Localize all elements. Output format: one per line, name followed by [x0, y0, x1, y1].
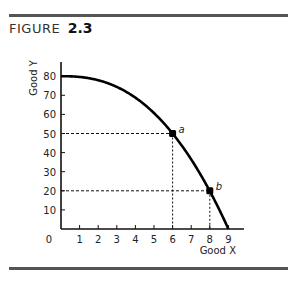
x-tick-label: 1	[76, 234, 82, 245]
x-tick-label: 3	[114, 234, 120, 245]
ppf-chart: 1234567891020304050607080 ab Good X Good…	[0, 0, 300, 281]
origin-label: 0	[46, 234, 52, 245]
x-tick-label: 4	[132, 234, 138, 245]
y-tick-label: 20	[43, 186, 56, 197]
series	[61, 76, 228, 229]
y-tick-label: 80	[43, 71, 56, 82]
x-tick-label: 7	[188, 234, 194, 245]
ticks: 1234567891020304050607080	[43, 71, 231, 245]
ppf-curve	[61, 76, 228, 229]
y-axis-label: Good Y	[28, 59, 39, 96]
guide-lines	[61, 134, 210, 230]
point-label-b: b	[216, 181, 222, 192]
x-tick-label: 9	[225, 234, 231, 245]
point-b	[206, 187, 213, 194]
y-tick-label: 40	[43, 148, 56, 159]
y-tick-label: 60	[43, 109, 56, 120]
x-tick-label: 6	[169, 234, 175, 245]
points: ab	[169, 124, 222, 195]
y-tick-label: 50	[43, 129, 56, 140]
y-tick-label: 10	[43, 205, 56, 216]
bottom-rule	[9, 267, 288, 270]
point-a	[169, 130, 176, 137]
x-tick-label: 2	[95, 234, 101, 245]
y-tick-label: 30	[43, 167, 56, 178]
point-label-a: a	[179, 124, 185, 135]
x-tick-label: 5	[151, 234, 157, 245]
x-axis-label: Good X	[200, 245, 237, 256]
y-tick-label: 70	[43, 90, 56, 101]
x-tick-label: 8	[207, 234, 213, 245]
